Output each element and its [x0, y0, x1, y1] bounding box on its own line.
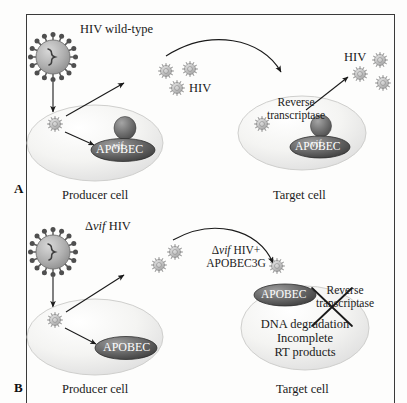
released-line-2: APOBEC3G	[190, 257, 282, 270]
outcome-line-3: RT products	[240, 345, 370, 359]
hiv-suffix: HIV	[106, 219, 131, 233]
delta-vif-apobec3g-label: Δvif HIV+ APOBEC3G	[190, 244, 282, 270]
rt-blocked-line-1: Reverse	[312, 284, 378, 297]
delta-symbol: Δ	[85, 219, 93, 233]
vif-italic-2: vif	[219, 244, 231, 256]
apobec-label-producer-b: APOBEC	[103, 341, 150, 354]
panel-b-letter: B	[14, 380, 23, 396]
hiv-plus-suffix: HIV+	[231, 244, 261, 256]
panel-a: A HIV wild-type HIV HIV Reverse transcri…	[0, 0, 407, 202]
producer-cell-label-b: Producer cell	[62, 382, 128, 396]
released-line-1: Δvif HIV+	[190, 244, 282, 257]
apobec-label: APOBEC	[96, 143, 143, 156]
rt-blocked-line-2: transcriptase	[312, 297, 378, 310]
hiv-apobec-figure: A HIV wild-type HIV HIV Reverse transcri…	[0, 0, 407, 403]
released-hiv-label: HIV	[189, 81, 211, 95]
target-cell-label-b: Target cell	[276, 382, 329, 396]
hiv-wild-type-label: HIV wild-type	[80, 22, 153, 36]
outcome-text: DNA degradation Incomplete RT products	[240, 317, 370, 359]
apobec-label-target-b: APOBEC	[261, 288, 306, 301]
apobec-label-target: APOBEC	[295, 140, 340, 153]
rt-line-2: transcriptase	[257, 109, 335, 122]
outcome-line-1: DNA degradation	[240, 317, 370, 331]
outcome-line-2: Incomplete	[240, 331, 370, 345]
delta-vif-hiv-label: Δvif HIV	[85, 219, 131, 233]
panel-a-letter: A	[14, 181, 23, 197]
rt-line-1: Reverse	[257, 96, 335, 109]
vif-italic: vif	[93, 219, 106, 233]
delta-symbol-2: Δ	[212, 244, 219, 256]
target-released-hiv-label: HIV	[344, 50, 366, 64]
reverse-transcriptase-label: Reverse transcriptase	[257, 96, 335, 122]
reverse-transcriptase-blocked-label: Reverse transcriptase	[312, 284, 378, 310]
panel-b: B Δvif HIV Δvif HIV+ APOBEC3G APOBEC APO…	[0, 200, 407, 403]
